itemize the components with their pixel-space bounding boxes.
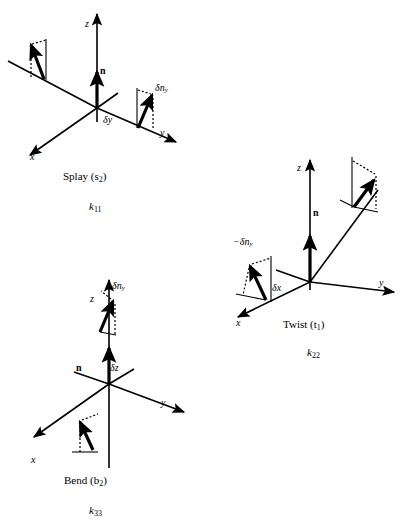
bend-axis-back-left (74, 372, 109, 384)
twist-lower-projection (243, 268, 249, 295)
bend-elastic-constant: k33 (89, 504, 102, 518)
twist-upper-tip-connector (353, 161, 375, 174)
bend-top-base (100, 332, 116, 335)
bend-director-bottom (80, 422, 93, 450)
splay-director-right (138, 95, 152, 128)
twist-deviation-text: −δn (233, 236, 249, 247)
figure-canvas: z y x n δy δny Splay (s2) k11 (0, 0, 402, 522)
twist-lower-base (236, 294, 266, 300)
splay-displacement-label: δy (103, 115, 112, 125)
bend-caption-close: ) (103, 474, 107, 486)
bend-y-label: y (161, 398, 165, 408)
splay-deviation-text: δn (155, 82, 165, 93)
splay-x-label: x (30, 152, 34, 162)
twist-diagonal-upper (310, 190, 378, 282)
splay-z-label: z (85, 19, 89, 29)
bend-deviation-sub: y (122, 284, 125, 292)
splay-y-axis-negative (8, 61, 97, 108)
bend-director-label: n (76, 363, 82, 373)
splay-constant-sub: 11 (94, 205, 102, 214)
twist-z-label: z (297, 163, 301, 173)
splay-caption: Splay (s2) (63, 170, 106, 184)
bend-x-label: x (31, 455, 35, 465)
twist-caption: Twist (t1) (283, 318, 324, 332)
splay-right-tip-connector (138, 90, 151, 94)
twist-caption-text: Twist (t (283, 318, 317, 330)
twist-elastic-constant: k22 (307, 346, 320, 360)
twist-y-label: y (379, 278, 383, 288)
splay-caption-text: Splay (s (63, 170, 99, 182)
splay-elastic-constant: k11 (89, 200, 102, 214)
splay-y-label: y (160, 128, 164, 138)
twist-constant-sub: 22 (312, 351, 320, 360)
bend-caption: Bend (b2) (64, 474, 107, 488)
bend-x-axis (34, 384, 109, 437)
splay-caption-close: ) (103, 170, 107, 182)
bend-bottom-tip-connector (82, 414, 98, 420)
splay-deviation-sub: y (165, 86, 168, 94)
twist-director-lower-left (250, 266, 266, 300)
splay-deviation-label: δny (155, 83, 168, 94)
splay-x-axis-back (97, 93, 118, 108)
twist-upper-base-right (354, 207, 378, 212)
twist-director-upper-right (354, 180, 374, 207)
twist-x-label: x (236, 318, 240, 328)
twist-axis-back-branch (276, 270, 310, 282)
twist-displacement-label: δx (272, 283, 281, 293)
bend-constant-sub: 33 (94, 509, 102, 518)
twist-deviation-label: −δny (233, 237, 253, 248)
bend-deviation-label: δny (112, 281, 125, 292)
bend-z-label: z (90, 294, 94, 304)
bend-caption-text: Bend (b (64, 474, 99, 486)
bend-deviation-text: δn (112, 280, 122, 291)
twist-lower-tip-connector (252, 258, 271, 264)
twist-director-label: n (313, 208, 319, 218)
bend-diagram (12, 272, 200, 472)
twist-caption-close: ) (321, 318, 325, 330)
twist-deviation-sub: y (249, 240, 252, 248)
splay-director-label: n (100, 66, 106, 76)
bend-y-axis (109, 384, 184, 412)
splay-left-tip-connector (32, 40, 46, 44)
bend-director-top (100, 301, 113, 332)
splay-x-axis (30, 108, 97, 155)
bend-displacement-label: δz (110, 363, 119, 373)
